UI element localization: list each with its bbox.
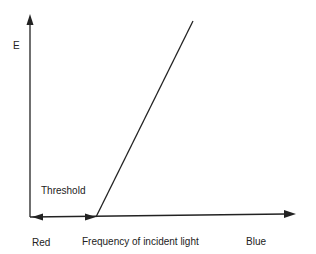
threshold-label: Threshold bbox=[41, 185, 85, 196]
energy-line bbox=[96, 21, 193, 217]
x-axis-left-label: Red bbox=[32, 237, 50, 248]
x-axis-arrow-icon bbox=[284, 210, 296, 218]
x-axis-right-label: Blue bbox=[246, 236, 266, 247]
threshold-left-arrow-icon bbox=[32, 214, 43, 221]
y-axis-arrow-icon bbox=[27, 14, 34, 25]
diagram-canvas bbox=[0, 0, 316, 254]
x-axis bbox=[30, 210, 296, 218]
threshold-right-arrow-icon bbox=[85, 214, 96, 221]
y-axis-label: E bbox=[13, 40, 20, 51]
x-axis-center-label: Frequency of incident light bbox=[82, 236, 199, 247]
y-axis bbox=[27, 14, 34, 217]
